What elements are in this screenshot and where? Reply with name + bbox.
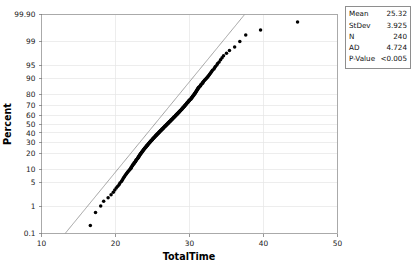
data-point — [99, 204, 103, 208]
statistics-row: StDev3.925 — [349, 20, 407, 31]
statistics-table: Mean25.32StDev3.925N240AD4.724P-Value<0.… — [349, 9, 407, 65]
data-point — [222, 54, 226, 58]
y-axis-title: Percent — [2, 103, 13, 145]
x-axis-tick-labels: 1020304050 — [37, 239, 343, 248]
axis-ticks — [39, 15, 338, 237]
y-axis-tick-labels: 0.115102030405060708090959999.90 — [14, 10, 35, 238]
y-tick-label: 70 — [26, 101, 36, 110]
probability-plot: 0.115102030405060708090959999.90 1020304… — [0, 0, 416, 267]
statistics-key: N — [349, 31, 378, 42]
y-tick-label: 99.90 — [14, 10, 35, 19]
statistics-key: StDev — [349, 20, 378, 31]
statistics-key: Mean — [349, 9, 378, 20]
data-point — [102, 200, 106, 204]
statistics-key: P-Value — [349, 54, 378, 65]
data-point — [89, 224, 93, 228]
data-point — [225, 52, 229, 56]
y-tick-label: 0.1 — [24, 229, 36, 238]
data-point — [94, 211, 98, 215]
data-point — [233, 45, 237, 49]
statistics-value: <0.005 — [378, 54, 407, 65]
statistics-value: 25.32 — [378, 9, 407, 20]
statistics-value: 3.925 — [378, 20, 407, 31]
data-point — [244, 33, 248, 37]
statistics-legend-box: Mean25.32StDev3.925N240AD4.724P-Value<0.… — [345, 6, 411, 69]
y-tick-label: 90 — [26, 74, 36, 83]
y-tick-label: 50 — [26, 120, 36, 129]
statistics-row: P-Value<0.005 — [349, 54, 407, 65]
statistics-row: Mean25.32 — [349, 9, 407, 20]
y-tick-label: 60 — [26, 111, 36, 120]
data-point — [296, 20, 300, 24]
y-tick-label: 1 — [31, 202, 36, 211]
data-point — [238, 40, 242, 44]
x-tick-label: 50 — [333, 239, 343, 248]
statistics-row: N240 — [349, 31, 407, 42]
statistics-value: 4.724 — [378, 43, 407, 54]
y-tick-label: 95 — [26, 61, 36, 70]
y-tick-label: 80 — [26, 90, 36, 99]
y-tick-label: 30 — [26, 138, 36, 147]
x-tick-label: 40 — [259, 239, 269, 248]
statistics-value: 240 — [378, 31, 407, 42]
x-tick-label: 20 — [111, 239, 121, 248]
data-point — [259, 28, 263, 32]
x-tick-label: 10 — [37, 239, 47, 248]
x-axis-title: TotalTime — [163, 251, 216, 262]
statistics-row: AD4.724 — [349, 43, 407, 54]
x-tick-label: 30 — [185, 239, 195, 248]
y-tick-label: 40 — [26, 129, 36, 138]
data-point — [106, 196, 110, 200]
statistics-key: AD — [349, 43, 378, 54]
y-tick-label: 99 — [26, 37, 36, 46]
y-tick-label: 10 — [26, 165, 36, 174]
y-tick-label: 5 — [31, 178, 36, 187]
data-point — [228, 49, 232, 53]
gridlines — [42, 15, 338, 234]
y-tick-label: 20 — [26, 149, 36, 158]
